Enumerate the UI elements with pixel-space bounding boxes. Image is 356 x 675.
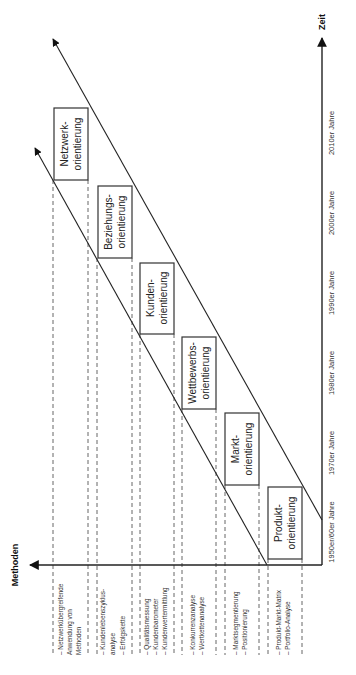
svg-text:Kunden-: Kunden-	[145, 279, 156, 317]
svg-text:orientierung: orientierung	[72, 118, 83, 171]
svg-text:– Marktsegmentierung: – Marktsegmentierung	[232, 591, 240, 655]
svg-text:– Konkurrenzanalyse: – Konkurrenzanalyse	[189, 595, 197, 655]
svg-text:– Qualitätsmessung: – Qualitätsmessung	[143, 598, 151, 655]
method-list-beziehung: – Kundenlebenszyklus- analyse – Erfolgsk…	[99, 589, 127, 655]
svg-text:– Kundenbarometer: – Kundenbarometer	[152, 598, 159, 655]
svg-text:analyse: analyse	[109, 633, 117, 655]
svg-text:Beziehungs-: Beziehungs-	[103, 194, 114, 250]
svg-text:1980er Jahre: 1980er Jahre	[327, 351, 336, 395]
box-beziehung: Beziehungs- orientierung	[98, 186, 132, 258]
orientation-evolution-diagram: Methoden Zeit Netzwerk- orientierung Bez…	[0, 0, 356, 675]
svg-text:– Netzwerkübergreifende: – Netzwerkübergreifende	[57, 583, 65, 655]
svg-text:orientierung: orientierung	[116, 196, 127, 249]
svg-text:1950er/60er Jahre: 1950er/60er Jahre	[327, 501, 336, 562]
svg-text:Netzwerk-: Netzwerk-	[59, 121, 70, 166]
methoden-axis-label: Methoden	[10, 544, 20, 587]
method-list-kunden: – Qualitätsmessung – Kundenbarometer – K…	[143, 587, 169, 655]
box-wettbewerb: Wettbewerbs- orientierung	[182, 337, 216, 409]
svg-text:orientierung: orientierung	[158, 272, 169, 325]
svg-text:– Kundenwertermittlung: – Kundenwertermittlung	[161, 587, 169, 655]
upper-diagonal-arrow	[53, 39, 322, 520]
svg-text:– Wertkettenanalyse: – Wertkettenanalyse	[198, 596, 206, 655]
box-markt: Markt- orientierung	[225, 413, 259, 485]
svg-text:orientierung: orientierung	[200, 347, 211, 400]
lower-diagonal-arrow	[35, 148, 267, 565]
method-list-netzwerk: – Netzwerkübergreifende Anwendung von Me…	[57, 583, 82, 655]
svg-text:– Produkt-Markt-Matrix: – Produkt-Markt-Matrix	[275, 589, 282, 655]
box-kunden: Kunden- orientierung	[140, 263, 174, 334]
svg-text:orientierung: orientierung	[243, 423, 254, 476]
year-labels: 1950er/60er Jahre 1970er Jahre 1980er Ja…	[327, 111, 336, 563]
method-list-wettbewerb: – Konkurrenzanalyse – Wertkettenanalyse	[189, 595, 206, 655]
svg-text:2010er Jahre: 2010er Jahre	[327, 111, 336, 155]
svg-text:1970er Jahre: 1970er Jahre	[327, 431, 336, 475]
box-produkt: Produkt- orientierung	[268, 487, 302, 559]
svg-text:Markt-: Markt-	[230, 435, 241, 463]
svg-text:– Portfolio-Analyse: – Portfolio-Analyse	[284, 601, 292, 655]
zeit-axis-label: Zeit	[317, 14, 327, 30]
svg-text:– Positionierung: – Positionierung	[241, 609, 249, 655]
method-list-markt: – Marktsegmentierung – Positionierung	[232, 591, 249, 655]
svg-text:Anwendung von: Anwendung von	[66, 609, 74, 655]
method-list-produkt: – Produkt-Markt-Matrix – Portfolio-Analy…	[275, 589, 292, 655]
svg-text:Wettbewerbs-: Wettbewerbs-	[187, 342, 198, 404]
svg-text:Produkt-: Produkt-	[273, 504, 284, 542]
box-netzwerk: Netzwerk- orientierung	[54, 108, 88, 180]
svg-text:Methoden: Methoden	[75, 626, 82, 655]
svg-text:2000er Jahre: 2000er Jahre	[327, 191, 336, 235]
svg-text:1990er Jahre: 1990er Jahre	[327, 271, 336, 315]
svg-text:– Erfolgskette: – Erfolgskette	[119, 615, 127, 655]
svg-text:– Kundenlebenszyklus-: – Kundenlebenszyklus-	[99, 589, 107, 655]
svg-text:orientierung: orientierung	[286, 497, 297, 550]
